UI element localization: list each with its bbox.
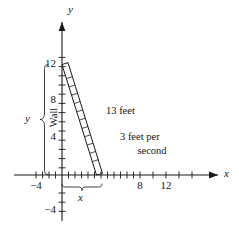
wall-label: Wall [48, 108, 59, 128]
y-axis-label: y [68, 4, 73, 16]
y-tick-label-4: 4 [42, 131, 56, 143]
height-variable-label: y [25, 113, 30, 125]
slide-rate-label-line2: second [120, 145, 184, 156]
x-tick-label-neg4: −4 [26, 180, 46, 192]
y-tick-label-8: 8 [42, 94, 56, 106]
x-tick-label-8: 8 [134, 180, 146, 192]
ladder-rail-left [62, 65, 97, 175]
ladder-top-cap [62, 63, 68, 65]
ladder-length-label: 13 feet [106, 105, 135, 116]
base-variable-label: x [78, 192, 83, 204]
y-axis-arrowhead [59, 22, 66, 31]
figure-canvas [0, 0, 239, 237]
y-tick-label-neg4: −4 [38, 204, 56, 216]
ladder [62, 63, 103, 175]
base-brace [62, 184, 102, 191]
x-tick-label-12: 12 [159, 180, 173, 192]
x-axis-arrowhead [209, 172, 218, 179]
ladder-rungs [66, 77, 98, 162]
y-tick-label-12: 12 [42, 58, 56, 70]
height-brace [40, 65, 48, 175]
ladder-wall-figure: y x 12 8 4 −4 −4 8 12 y x Wall 13 feet 3… [0, 0, 239, 237]
slide-rate-label-line1: 3 feet per [120, 131, 160, 142]
x-axis-label: x [224, 168, 229, 180]
